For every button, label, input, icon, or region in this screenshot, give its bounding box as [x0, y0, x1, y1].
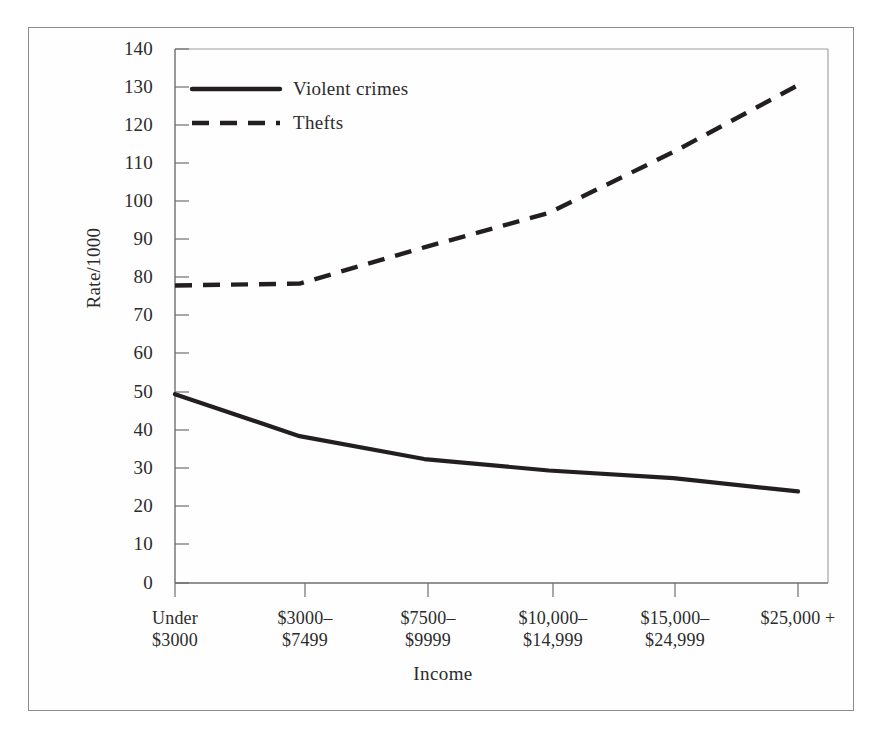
y-tick-label-60: 60	[95, 342, 153, 364]
x-tick-line1: Under	[100, 608, 250, 630]
x-tick-line2: $3000	[100, 630, 250, 652]
series-line-thefts	[175, 85, 798, 285]
x-tick-line1: $25,000 +	[723, 608, 873, 630]
figure-canvas: Violent crimes Thefts 140 130 120 110 10…	[0, 0, 886, 744]
y-tick-label-140: 140	[95, 38, 153, 60]
legend-label-thefts: Thefts	[293, 112, 343, 134]
x-axis-title: Income	[0, 663, 886, 685]
y-axis-title: Rate/1000	[83, 208, 109, 328]
y-tick-label-0: 0	[95, 572, 153, 594]
y-tick-label-120: 120	[95, 114, 153, 136]
x-tick-label-25000-plus: $25,000 +	[723, 608, 873, 630]
x-tick-label-under-3000: Under $3000	[100, 608, 250, 652]
x-axis-title-text: Income	[413, 663, 472, 684]
y-tick-label-50: 50	[95, 381, 153, 403]
legend-label-violent-crimes: Violent crimes	[293, 78, 408, 100]
y-tick-label-130: 130	[95, 76, 153, 98]
y-tick-label-110: 110	[95, 152, 153, 174]
y-tick-label-30: 30	[95, 457, 153, 479]
x-tick-line2: $24,999	[600, 630, 750, 652]
y-tick-label-40: 40	[95, 419, 153, 441]
y-axis-ticks	[175, 49, 189, 583]
y-axis-title-text: Rate/1000	[83, 228, 104, 309]
y-tick-label-20: 20	[95, 495, 153, 517]
y-tick-label-10: 10	[95, 533, 153, 555]
x-axis-ticks	[175, 583, 798, 597]
series-line-violent-crimes	[175, 394, 798, 491]
